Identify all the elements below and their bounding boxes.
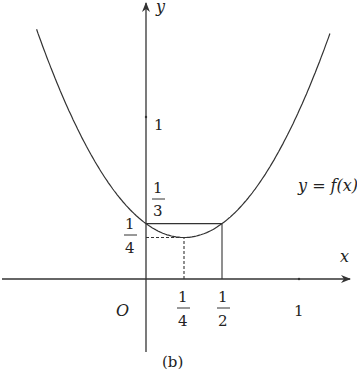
- svg-text:1: 1: [178, 288, 188, 306]
- caption: (b): [162, 353, 183, 371]
- curve-label: y = f(x): [297, 176, 357, 195]
- svg-text:1: 1: [125, 215, 135, 233]
- guide-lines: [146, 224, 222, 279]
- x-axis-label: x: [340, 247, 349, 266]
- y-tick-label-one-third: 1 3: [152, 179, 165, 220]
- origin-label: O: [116, 301, 129, 320]
- x-tick-1: [298, 278, 300, 280]
- y-tick-label-one-quarter: 1 4: [124, 215, 137, 257]
- y-axis-label: y: [155, 0, 166, 16]
- parabola-plot: y x O 1 1 y = f(x) 1 3 1 4 1 4 1 2 (b): [0, 0, 357, 386]
- x-tick-label-one-half: 1 2: [217, 288, 230, 330]
- svg-text:3: 3: [153, 202, 163, 220]
- svg-text:4: 4: [125, 239, 135, 257]
- x-tick-label-one-quarter: 1 4: [177, 288, 190, 330]
- svg-text:4: 4: [178, 312, 188, 330]
- curve-f: [37, 29, 330, 237]
- figure: y x O 1 1 y = f(x) 1 3 1 4 1 4 1 2 (b): [0, 0, 357, 386]
- svg-text:1: 1: [153, 179, 163, 197]
- y-tick-1: [145, 116, 147, 118]
- x-tick-label-1: 1: [294, 302, 304, 320]
- svg-text:1: 1: [218, 288, 228, 306]
- y-tick-label-1: 1: [154, 116, 164, 134]
- svg-text:2: 2: [218, 312, 228, 330]
